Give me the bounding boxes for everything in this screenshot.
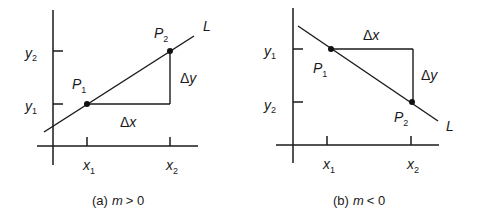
label-P1: P1 — [313, 60, 327, 79]
label-P2: P2 — [154, 25, 168, 44]
point-P1 — [84, 101, 90, 107]
label-delta-y: Δy — [421, 67, 438, 83]
caption-a: (a)m> 0 — [92, 193, 144, 208]
label-x1: x1 — [82, 157, 95, 176]
slope-diagram: L P2 P1 y2 y1 x1 x2 Δx Δy (a)m> 0 — [0, 0, 479, 220]
line-label-L: L — [446, 118, 454, 134]
label-y1: y1 — [263, 43, 276, 61]
label-y1: y1 — [24, 98, 37, 116]
label-y2: y2 — [263, 97, 276, 115]
point-P2 — [409, 99, 415, 105]
line-label-L: L — [203, 18, 211, 34]
label-P2: P2 — [394, 109, 408, 128]
label-x2: x2 — [406, 156, 419, 175]
label-x2: x2 — [165, 157, 178, 176]
point-P2 — [167, 48, 173, 54]
point-P1 — [328, 46, 334, 52]
label-delta-x: Δx — [363, 27, 380, 43]
panel-b-negative-slope: L P1 P2 y1 y2 x1 x2 Δx Δy (b)m< 0 — [263, 8, 454, 208]
label-x1: x1 — [322, 156, 335, 175]
label-y2: y2 — [24, 45, 37, 63]
label-P1: P1 — [72, 76, 86, 95]
label-delta-x: Δx — [120, 114, 137, 130]
panel-a-positive-slope: L P2 P1 y2 y1 x1 x2 Δx Δy (a)m> 0 — [24, 10, 211, 208]
label-delta-y: Δy — [180, 70, 197, 86]
caption-b: (b)m< 0 — [333, 193, 385, 208]
